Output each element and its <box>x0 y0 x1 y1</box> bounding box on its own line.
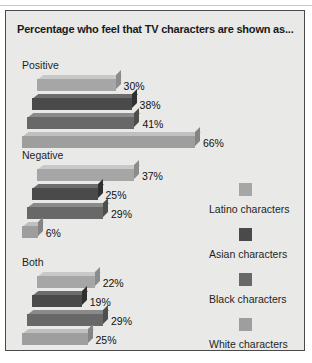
legend-label-latino: Latino characters <box>209 203 290 215</box>
bar-value-label: 6% <box>46 227 61 239</box>
bar-value-label: 25% <box>106 189 127 201</box>
bar-end-cap <box>103 305 108 324</box>
bar-end-cap <box>134 108 139 127</box>
bar-body <box>37 75 116 87</box>
bar-value-label: 41% <box>142 118 163 130</box>
bar-front-face <box>32 98 132 110</box>
bar-body <box>22 329 88 341</box>
bar-value-label: 22% <box>103 277 124 289</box>
bar-front-face <box>27 207 103 219</box>
bar-value-label: 37% <box>142 170 163 182</box>
bar-front-face <box>27 117 134 129</box>
bar-value-label: 29% <box>111 208 132 220</box>
bar-body <box>32 94 132 106</box>
bar-both-asian <box>32 291 87 309</box>
bar-body <box>27 113 134 125</box>
bar-value-label: 29% <box>111 315 132 327</box>
bar-end-cap <box>95 267 100 286</box>
group-label-both: Both <box>22 256 44 268</box>
bar-value-label: 66% <box>203 137 224 149</box>
bar-end-cap <box>116 70 121 89</box>
bar-front-face <box>32 188 98 200</box>
bar-both-latino <box>37 272 100 290</box>
legend-swatch-asian <box>239 228 252 241</box>
bar-front-face <box>37 79 116 91</box>
bar-negative-latino <box>37 165 139 183</box>
chart-title: Percentage who feel that TV characters a… <box>17 23 295 36</box>
bar-front-face <box>22 333 88 345</box>
bar-positive-asian <box>32 94 137 112</box>
page-top-edge <box>0 0 312 6</box>
legend-swatch-white <box>239 318 252 331</box>
bar-end-cap <box>132 89 137 108</box>
bar-end-cap <box>103 198 108 217</box>
bar-body <box>27 203 103 215</box>
bar-body <box>32 184 98 196</box>
bar-body <box>32 291 82 303</box>
bar-end-cap <box>88 324 93 343</box>
bar-end-cap <box>82 286 87 305</box>
legend-label-black: Black characters <box>209 293 287 305</box>
bar-body <box>22 222 38 234</box>
bar-end-cap <box>38 217 43 236</box>
bar-both-black <box>27 310 108 328</box>
legend-label-asian: Asian characters <box>209 248 287 260</box>
bar-negative-asian <box>32 184 103 202</box>
bar-body <box>37 165 134 177</box>
bar-end-cap <box>98 179 103 198</box>
bar-positive-black <box>27 113 139 131</box>
bar-both-white <box>22 329 93 347</box>
bar-value-label: 25% <box>96 334 117 346</box>
bar-negative-white <box>22 222 43 240</box>
bar-body <box>27 310 103 322</box>
group-label-positive: Positive <box>22 59 59 71</box>
bar-front-face <box>22 226 38 238</box>
legend-swatch-black <box>239 273 252 286</box>
bar-end-cap <box>195 127 200 146</box>
bar-value-label: 38% <box>140 99 161 111</box>
legend-swatch-latino <box>239 183 252 196</box>
bar-end-cap <box>134 160 139 179</box>
legend-label-white: White characters <box>209 338 288 350</box>
bar-positive-white <box>22 132 200 150</box>
bar-front-face <box>22 136 195 148</box>
group-label-negative: Negative <box>22 149 63 161</box>
bar-front-face <box>37 169 134 181</box>
bar-positive-latino <box>37 75 121 93</box>
bar-negative-black <box>27 203 108 221</box>
bar-body <box>37 272 95 284</box>
chart-panel: Percentage who feel that TV characters a… <box>5 10 305 351</box>
bar-front-face <box>32 295 82 307</box>
bar-body <box>22 132 195 144</box>
